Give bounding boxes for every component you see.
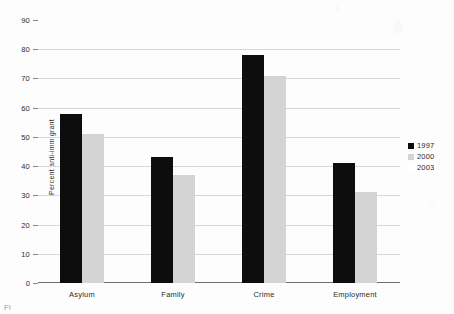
gray-swatch-icon — [408, 154, 414, 160]
y-tick-60 — [33, 108, 38, 109]
y-tick-90 — [33, 20, 38, 21]
bar-asylum-1997 — [60, 114, 82, 283]
y-tick-10 — [33, 254, 38, 255]
bar-group-crime: Crime — [242, 20, 308, 283]
figure-caption: Fi — [4, 303, 11, 312]
x-tick-label-asylum: Asylum — [69, 290, 95, 299]
y-tick-label-10: 10 — [21, 249, 30, 258]
bar-crime-2000 — [264, 76, 286, 283]
bar-crime-1997 — [242, 55, 264, 283]
y-tick-label-50: 50 — [21, 132, 30, 141]
y-tick-label-0: 0 — [26, 279, 30, 288]
bar-employment-2000 — [355, 192, 377, 283]
figure-container: Percent anti-immigrant 90 80 70 60 50 40 — [0, 0, 454, 314]
y-tick-50 — [33, 137, 38, 138]
legend-label-2000: 2000 — [417, 152, 435, 161]
y-tick-80 — [33, 49, 38, 50]
y-tick-label-40: 40 — [21, 162, 30, 171]
black-swatch-icon — [408, 143, 414, 149]
y-tick-30 — [33, 195, 38, 196]
x-tick-label-family: Family — [161, 290, 184, 299]
y-tick-label-80: 80 — [21, 45, 30, 54]
bar-asylum-2000 — [82, 134, 104, 283]
y-tick-label-20: 20 — [21, 220, 30, 229]
bar-group-employment: Employment — [333, 20, 399, 283]
legend-item-2000[interactable]: 2000 — [408, 151, 435, 162]
y-tick-label-90: 90 — [21, 16, 30, 25]
legend-item-2003[interactable]: 2003 — [408, 162, 435, 173]
bar-family-2000 — [173, 175, 195, 283]
y-tick-label-30: 30 — [21, 191, 30, 200]
legend-label-1997: 1997 — [417, 141, 435, 150]
legend-label-2003: 2003 — [417, 163, 435, 172]
legend-item-1997[interactable]: 1997 — [408, 140, 435, 151]
scan-artifact — [430, 200, 434, 204]
scan-artifact — [335, 6, 339, 11]
bar-group-asylum: Asylum — [60, 20, 126, 283]
y-tick-70 — [33, 78, 38, 79]
y-tick-40 — [33, 166, 38, 167]
bar-family-1997 — [151, 157, 173, 283]
x-tick-label-employment: Employment — [333, 290, 377, 299]
y-tick-label-70: 70 — [21, 74, 30, 83]
scan-artifact — [150, 12, 153, 15]
white-swatch-icon — [408, 165, 414, 171]
bar-employment-1997 — [333, 163, 355, 283]
x-tick-label-crime: Crime — [254, 290, 275, 299]
y-tick-0 — [33, 283, 38, 284]
gridline-0: 0 — [38, 283, 400, 284]
plot-area: 90 80 70 60 50 40 30 20 — [38, 20, 400, 283]
y-tick-20 — [33, 225, 38, 226]
y-tick-label-60: 60 — [21, 103, 30, 112]
chart-legend: 1997 2000 2003 — [408, 140, 435, 173]
bar-group-family: Family — [151, 20, 217, 283]
